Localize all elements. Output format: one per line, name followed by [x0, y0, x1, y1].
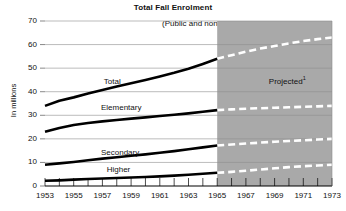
series-label-elementary: Elementary [101, 103, 141, 112]
projected-label-text: Projected [269, 76, 303, 85]
y-tick-label-0: 0 [15, 182, 37, 190]
series-label-secondary: Secondary [101, 148, 139, 157]
y-tick-label-50: 50 [15, 64, 37, 72]
x-tick-label-1959: 1959 [116, 192, 146, 200]
x-tick-label-1973: 1973 [317, 192, 346, 200]
x-tick-label-1971: 1971 [288, 192, 318, 200]
series-actual-line-elementary [45, 110, 217, 132]
projected-footnote-marker: 1 [303, 75, 306, 81]
x-tick-label-1953: 1953 [30, 192, 60, 200]
series-actual-line-total [45, 59, 217, 106]
y-tick-label-30: 30 [15, 111, 37, 119]
series-label-total: Total [104, 77, 121, 86]
y-tick-label-70: 70 [15, 17, 37, 25]
chart-container: Total Fall Enrolment (Public and non-pub… [0, 0, 346, 211]
x-tick-label-1965: 1965 [202, 192, 232, 200]
chart-plot-area [0, 0, 346, 211]
y-tick-label-10: 10 [15, 158, 37, 166]
x-tick-label-1957: 1957 [87, 192, 117, 200]
x-tick-label-1969: 1969 [260, 192, 290, 200]
x-tick-label-1963: 1963 [174, 192, 204, 200]
x-tick-label-1967: 1967 [231, 192, 261, 200]
x-tick-label-1961: 1961 [145, 192, 175, 200]
y-tick-label-60: 60 [15, 41, 37, 49]
y-tick-label-20: 20 [15, 135, 37, 143]
projected-annotation: Projected1 [269, 75, 306, 86]
y-tick-label-40: 40 [15, 88, 37, 96]
x-tick-label-1955: 1955 [59, 192, 89, 200]
series-label-higher: Higher [107, 165, 131, 174]
